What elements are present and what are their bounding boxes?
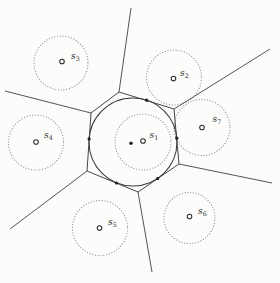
- tangent-point-dot: [115, 181, 118, 184]
- tangent-point-dot: [175, 137, 178, 140]
- site-marker-s4: [34, 140, 39, 145]
- site-marker-s2: [171, 76, 176, 81]
- inscribed-circle: [89, 98, 177, 186]
- tangent-point-dot: [156, 177, 159, 180]
- site-marker-s7: [200, 125, 205, 130]
- voronoi-cell-boundary: [87, 92, 179, 192]
- tangent-point-dot: [145, 99, 148, 102]
- voronoi-edge-top: [119, 8, 131, 92]
- site-marker-s6: [187, 214, 192, 219]
- voronoi-edge-left: [5, 91, 91, 113]
- site-marker-s5: [97, 226, 102, 231]
- site-label-s3: s3: [71, 51, 80, 62]
- voronoi-edge-lower-left: [10, 171, 87, 229]
- circle-center-dot: [129, 142, 132, 145]
- voronoi-edge-bottom: [138, 192, 152, 272]
- site-label-s7: s7: [213, 114, 222, 125]
- site-marker-s3: [60, 59, 65, 64]
- voronoi-figure: s1s2s3s4s5s6s7: [0, 0, 280, 283]
- site-marker-s1: [141, 139, 146, 144]
- site-label-s4: s4: [44, 130, 53, 141]
- site-label-s6: s6: [198, 206, 207, 217]
- voronoi-edge-right: [179, 164, 272, 183]
- site-label-s5: s5: [108, 217, 117, 228]
- site-label-s2: s2: [180, 68, 189, 79]
- site-label-s1: s1: [150, 130, 159, 141]
- voronoi-diagram: s1s2s3s4s5s6s7: [0, 0, 280, 283]
- tangent-point-dot: [88, 137, 91, 140]
